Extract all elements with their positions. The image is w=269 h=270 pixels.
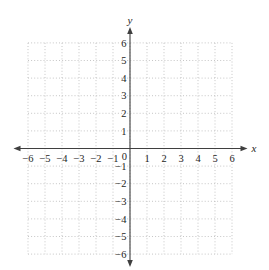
x-tick-label: −4 [56, 153, 68, 164]
x-axis-arrow-left-icon [14, 146, 21, 152]
x-axis-label: x [251, 142, 257, 154]
y-tick-label: −4 [115, 214, 127, 225]
x-tick-label: 4 [195, 153, 201, 164]
y-tick-label: 4 [121, 73, 127, 84]
x-tick-label: 6 [229, 153, 234, 164]
y-tick-label: 1 [121, 126, 126, 137]
x-tick-label: −2 [90, 153, 101, 164]
x-tick-label: −3 [73, 153, 84, 164]
coordinate-plane: −6−5−4−3−2−1123456654321−1−2−3−4−5−60xy [0, 0, 269, 270]
x-tick-label: 3 [178, 153, 183, 164]
y-tick-label: 6 [121, 38, 126, 49]
x-tick-label: −6 [22, 153, 33, 164]
x-axis-arrow-right-icon [241, 146, 248, 152]
y-tick-label: −3 [115, 196, 126, 207]
x-tick-label: 2 [161, 153, 166, 164]
x-tick-label: −5 [39, 153, 50, 164]
y-axis-arrow-up-icon [127, 27, 133, 34]
y-tick-label: −5 [115, 231, 126, 242]
axes [19, 33, 242, 261]
origin-label: 0 [122, 151, 127, 162]
y-axis-arrow-down-icon [127, 260, 133, 267]
x-tick-label: 1 [144, 153, 149, 164]
y-tick-label: 3 [121, 90, 126, 101]
y-axis-label: y [127, 14, 133, 26]
y-tick-label: 5 [121, 55, 126, 66]
coordinate-plane-figure: −6−5−4−3−2−1123456654321−1−2−3−4−5−60xy [0, 0, 269, 270]
y-tick-label: −6 [115, 249, 126, 260]
y-tick-label: −1 [115, 161, 126, 172]
y-tick-label: −2 [115, 178, 126, 189]
y-tick-label: 2 [121, 108, 126, 119]
x-tick-label: 5 [212, 153, 217, 164]
